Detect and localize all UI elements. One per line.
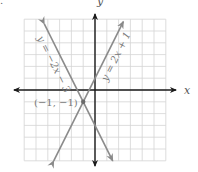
intersection-point (81, 100, 85, 104)
line-y-neg2x-minus-3 (44, 24, 112, 161)
intersection-label: (−1, −1) (34, 97, 78, 108)
coordinate-graph: x y . y = 2x + 1 y = −2x − 3 (−1, −1) (0, 0, 198, 172)
corner-mark: . (0, 0, 3, 6)
y-axis-label: y (96, 0, 104, 8)
x-axis-label: x (184, 84, 191, 97)
